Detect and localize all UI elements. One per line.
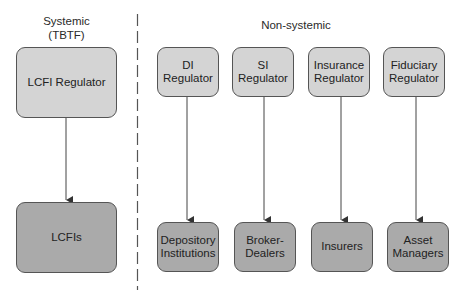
asset-managers-label: Asset Managers bbox=[392, 234, 443, 261]
insurance-regulator-box: Insurance Regulator bbox=[308, 47, 370, 97]
systemic-section-title: Systemic (TBTF) bbox=[16, 14, 117, 42]
broker-dealers-box: Broker- Dealers bbox=[234, 222, 296, 272]
non-systemic-section-title: Non-systemic bbox=[246, 18, 346, 32]
depository-institutions-box: Depository Institutions bbox=[157, 222, 219, 272]
fiduciary-regulator-label: Fiduciary Regulator bbox=[389, 59, 439, 86]
si-regulator-label: SI Regulator bbox=[238, 59, 288, 86]
insurance-regulator-label: Insurance Regulator bbox=[314, 59, 365, 86]
di-regulator-box: DI Regulator bbox=[157, 47, 219, 97]
broker-dealers-label: Broker- Dealers bbox=[245, 234, 285, 261]
di-regulator-label: DI Regulator bbox=[163, 59, 213, 86]
systemic-title-line2: (TBTF) bbox=[16, 28, 117, 42]
asset-managers-box: Asset Managers bbox=[387, 222, 449, 272]
fiduciary-regulator-box: Fiduciary Regulator bbox=[383, 47, 445, 97]
depository-institutions-label: Depository Institutions bbox=[161, 234, 216, 261]
lcfi-regulator-label: LCFI Regulator bbox=[28, 76, 106, 90]
lcfis-box: LCFIs bbox=[16, 202, 117, 273]
insurers-label: Insurers bbox=[321, 240, 363, 254]
systemic-title-line1: Systemic bbox=[16, 14, 117, 28]
si-regulator-box: SI Regulator bbox=[232, 47, 294, 97]
lcfi-regulator-box: LCFI Regulator bbox=[16, 47, 117, 118]
insurers-box: Insurers bbox=[311, 222, 373, 272]
lcfis-label: LCFIs bbox=[51, 231, 82, 245]
